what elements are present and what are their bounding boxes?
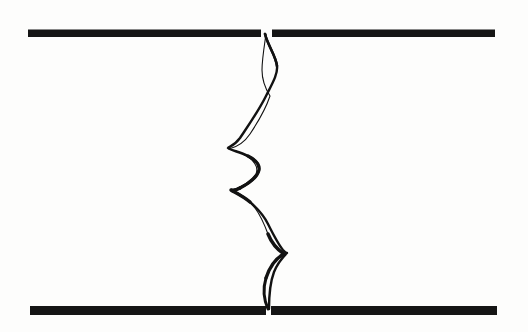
top-bar-left — [28, 30, 261, 38]
bottom-bar-right — [271, 306, 497, 315]
fracture-illustration — [0, 0, 528, 332]
figure-canvas — [0, 0, 528, 332]
bottom-bar-left — [30, 306, 266, 315]
top-bar-right — [272, 30, 495, 38]
